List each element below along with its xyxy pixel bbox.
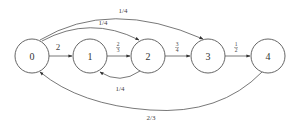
edge-label-3-4: 1 2 xyxy=(234,41,238,53)
svg-text:2: 2 xyxy=(146,51,151,62)
edge-label-0-2: 1/4 xyxy=(99,19,108,27)
edge-label-2-3: 3 4 xyxy=(175,41,179,53)
edge-2-1 xyxy=(100,71,140,78)
svg-text:4: 4 xyxy=(266,51,271,62)
svg-text:0: 0 xyxy=(30,51,35,62)
edge-label-0-1: 2 xyxy=(56,42,61,52)
svg-text:3: 3 xyxy=(206,51,211,62)
node-0: 0 xyxy=(15,39,49,73)
svg-text:3: 3 xyxy=(117,47,120,53)
node-4: 4 xyxy=(251,39,285,73)
node-1: 1 xyxy=(73,39,107,73)
svg-text:1: 1 xyxy=(88,51,93,62)
node-2: 2 xyxy=(131,39,165,73)
svg-text:4: 4 xyxy=(176,47,179,53)
node-3: 3 xyxy=(191,39,225,73)
state-diagram: 2 2 3 3 4 1 2 1/4 1/4 1/4 2/3 0 1 2 3 4 xyxy=(0,0,300,125)
edge-label-0-3: 1/4 xyxy=(119,7,128,15)
svg-text:2: 2 xyxy=(235,47,238,53)
edge-label-1-2: 2 3 xyxy=(116,41,120,53)
edge-label-2-1: 1/4 xyxy=(116,85,125,93)
edge-4-0 xyxy=(40,72,262,111)
edge-label-4-0: 2/3 xyxy=(147,114,156,122)
edge-0-3 xyxy=(40,19,203,40)
